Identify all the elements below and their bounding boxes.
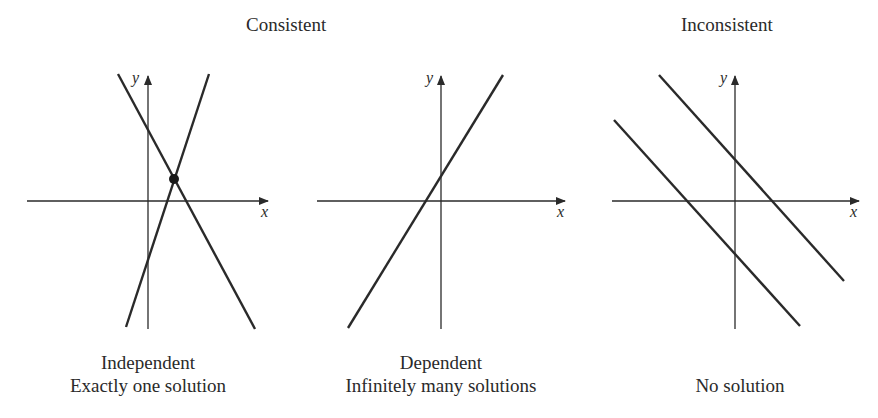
caption-title: Dependent: [321, 351, 561, 374]
plotted-line: [659, 75, 844, 281]
header-inconsistent: Inconsistent: [681, 13, 773, 36]
caption-title: Independent: [48, 351, 248, 374]
panel-dependent-axes: [317, 76, 565, 329]
y-axis-label: y: [720, 69, 727, 87]
intersection-point: [169, 174, 179, 184]
panel-inconsistent-axes: [612, 76, 859, 329]
caption-inconsistent: No solution: [660, 374, 820, 397]
y-axis-label: y: [426, 69, 433, 87]
plotted-line: [614, 120, 800, 326]
caption-subtitle: Infinitely many solutions: [321, 374, 561, 397]
caption-subtitle: No solution: [660, 374, 820, 397]
y-axis-label: y: [132, 69, 139, 87]
caption-subtitle: Exactly one solution: [48, 374, 248, 397]
header-consistent: Consistent: [246, 13, 326, 36]
x-axis-label: x: [261, 203, 268, 221]
caption-independent: Independent Exactly one solution: [48, 351, 248, 397]
panel-independent-axes: [27, 76, 268, 329]
x-axis-label: x: [850, 203, 857, 221]
x-axis-label: x: [557, 203, 564, 221]
caption-dependent: Dependent Infinitely many solutions: [321, 351, 561, 397]
